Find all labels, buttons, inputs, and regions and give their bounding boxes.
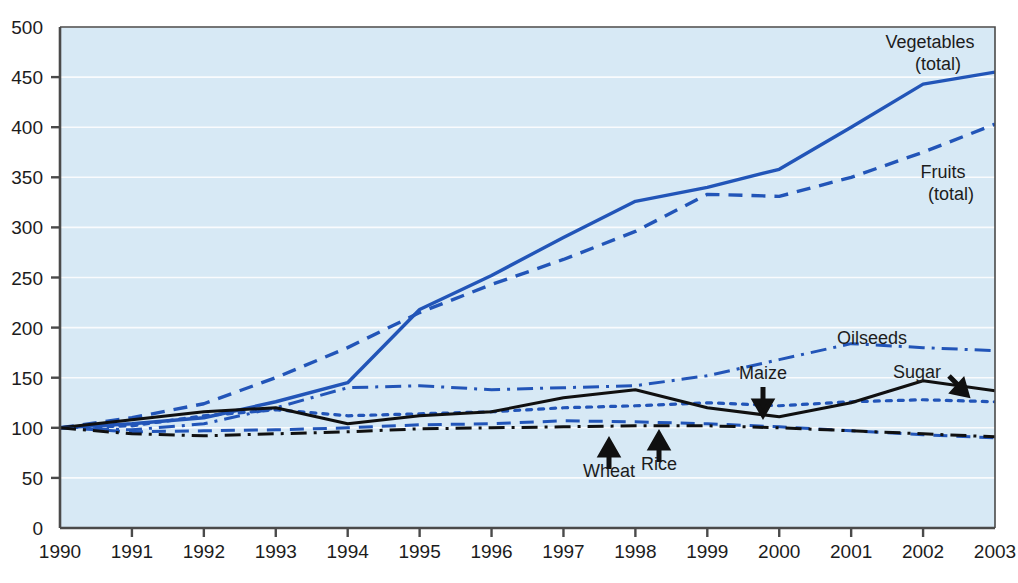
x-tick-label: 1996 (470, 541, 512, 562)
x-tick-label: 1992 (183, 541, 225, 562)
y-tick-label: 500 (11, 17, 43, 38)
y-tick-label: 250 (11, 268, 43, 289)
x-axis-ticks: 1990199119921993199419951996199719981999… (39, 528, 1016, 562)
series-label-text: Maize (739, 363, 787, 383)
y-tick-label: 50 (22, 468, 43, 489)
x-tick-label: 2001 (830, 541, 872, 562)
y-tick-label: 350 (11, 167, 43, 188)
annotation-oilseeds: Oilseeds (837, 328, 907, 348)
y-tick-label: 450 (11, 67, 43, 88)
y-tick-label: 100 (11, 418, 43, 439)
index-line-chart: 050100150200250300350400450500 199019911… (0, 0, 1018, 583)
chart-container: 050100150200250300350400450500 199019911… (0, 0, 1018, 583)
x-tick-label: 1990 (39, 541, 81, 562)
x-tick-label: 2002 (902, 541, 944, 562)
series-label-text: Vegetables (885, 32, 974, 52)
series-label-text: Oilseeds (837, 328, 907, 348)
x-tick-label: 1993 (255, 541, 297, 562)
y-tick-label: 300 (11, 217, 43, 238)
series-label-text-2: (total) (915, 54, 961, 74)
x-tick-label: 2000 (758, 541, 800, 562)
x-tick-label: 1991 (111, 541, 153, 562)
x-tick-label: 1997 (542, 541, 584, 562)
x-tick-label: 1999 (686, 541, 728, 562)
y-tick-label: 150 (11, 368, 43, 389)
y-tick-label: 200 (11, 318, 43, 339)
series-label-text: Fruits (921, 162, 966, 182)
y-axis-ticks: 050100150200250300350400450500 (11, 17, 60, 539)
x-tick-label: 1994 (327, 541, 370, 562)
x-tick-label: 1995 (398, 541, 440, 562)
x-tick-label: 2003 (974, 541, 1016, 562)
x-tick-label: 1998 (614, 541, 656, 562)
y-tick-label: 400 (11, 117, 43, 138)
series-label-text-2: (total) (928, 184, 974, 204)
series-label-text: Sugar (893, 362, 941, 382)
y-tick-label: 0 (32, 518, 43, 539)
